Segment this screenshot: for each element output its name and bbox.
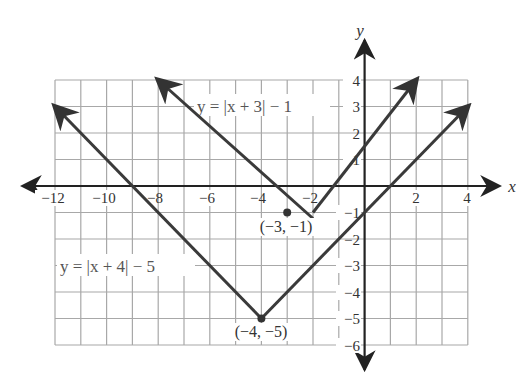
x-tick-label: −10 xyxy=(92,190,115,206)
y-tick-label: −2 xyxy=(344,232,360,248)
y-tick-label: −3 xyxy=(344,258,360,274)
vertex-label-1: (−3, −1) xyxy=(260,218,313,236)
y-tick-label: 3 xyxy=(353,99,361,115)
x-axis-label: x xyxy=(507,177,516,196)
vertex-point-1 xyxy=(283,209,291,217)
x-tick-label: 4 xyxy=(463,190,471,206)
x-tick-label: −12 xyxy=(41,190,64,206)
equation-label-1: y = |x + 3| − 1 xyxy=(197,97,292,116)
y-tick-label: 4 xyxy=(353,73,361,89)
y-axis-label: y xyxy=(354,21,364,40)
chart: −12 −10 −8 −6 −4 −2 2 4 4 3 2 1 −1 −2 −3… xyxy=(0,0,529,387)
x-tick-label: 2 xyxy=(412,190,420,206)
vertex-label-2: (−4, −5) xyxy=(235,323,288,341)
x-tick-label: −6 xyxy=(199,190,215,206)
vertex-point-2 xyxy=(257,315,265,323)
y-tick-label: −4 xyxy=(344,285,360,301)
y-tick-label: 2 xyxy=(353,126,361,142)
x-tick-label: −4 xyxy=(250,190,266,206)
equation-label-2: y = |x + 4| − 5 xyxy=(60,257,155,276)
x-tick-label: −2 xyxy=(302,190,318,206)
y-tick-label: −5 xyxy=(344,311,360,327)
y-tick-label: −6 xyxy=(344,338,360,354)
grid xyxy=(55,80,468,345)
